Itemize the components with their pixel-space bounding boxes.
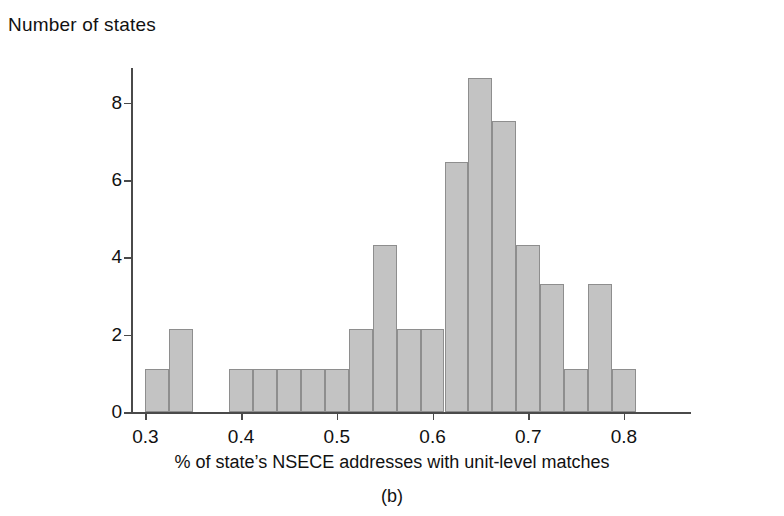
y-tick-mark	[124, 412, 131, 414]
y-tick-label: 8	[111, 92, 122, 114]
histogram-bar	[229, 369, 253, 412]
x-tick-mark	[433, 412, 435, 420]
histogram-bar	[169, 329, 193, 412]
y-tick-mark	[124, 180, 131, 182]
x-tick-mark	[145, 412, 147, 420]
x-tick-label: 0.7	[515, 426, 541, 448]
histogram-bar	[253, 369, 277, 412]
histogram-bar	[445, 162, 469, 412]
histogram-bar	[421, 329, 445, 412]
y-tick-label: 0	[111, 401, 122, 423]
histogram-bar	[397, 329, 421, 412]
y-axis-line	[131, 68, 133, 412]
histogram-figure: Number of states 02468 0.30.40.50.60.70.…	[0, 0, 784, 516]
x-tick-mark	[241, 412, 243, 420]
histogram-bar	[612, 369, 636, 412]
y-tick-label: 2	[111, 324, 122, 346]
histogram-bar	[145, 369, 169, 412]
histogram-bar	[468, 78, 492, 412]
x-tick-label: 0.3	[132, 426, 158, 448]
histogram-bar	[564, 369, 588, 412]
y-tick-label: 4	[111, 246, 122, 268]
x-tick-label: 0.8	[611, 426, 637, 448]
x-tick-mark	[337, 412, 339, 420]
x-tick-mark	[624, 412, 626, 420]
x-tick-label: 0.6	[419, 426, 445, 448]
x-tick-label: 0.4	[228, 426, 254, 448]
panel-caption: (b)	[0, 486, 784, 507]
y-axis-title: Number of states	[8, 14, 156, 36]
histogram-bar	[516, 245, 540, 412]
histogram-bar	[540, 284, 564, 412]
histogram-bar	[301, 369, 325, 412]
histogram-bar	[492, 121, 516, 412]
x-axis-line	[131, 412, 691, 414]
x-tick-label: 0.5	[324, 426, 350, 448]
x-axis-title: % of state’s NSECE addresses with unit-l…	[0, 452, 784, 473]
y-tick-mark	[124, 335, 131, 337]
x-tick-mark	[528, 412, 530, 420]
histogram-bar	[325, 369, 349, 412]
histogram-bar	[277, 369, 301, 412]
histogram-bar	[588, 284, 612, 412]
histogram-bar	[349, 329, 373, 412]
y-tick-mark	[124, 257, 131, 259]
histogram-bar	[373, 245, 397, 412]
plot-area: 02468 0.30.40.50.60.70.8	[131, 60, 691, 412]
y-tick-mark	[124, 103, 131, 105]
y-tick-label: 6	[111, 169, 122, 191]
